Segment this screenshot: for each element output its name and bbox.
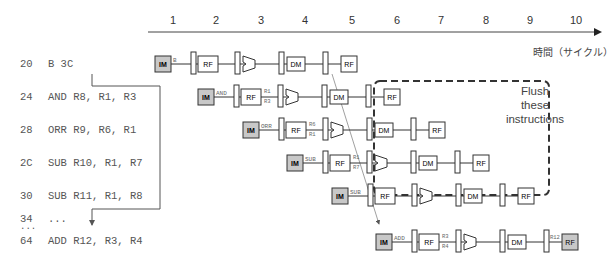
svg-text:RF: RF [432, 127, 441, 134]
svg-text:RF: RF [335, 160, 344, 167]
svg-text:R3: R3 [442, 233, 449, 240]
svg-text:RF: RF [476, 160, 485, 167]
svg-text:DM: DM [423, 160, 434, 167]
svg-text:IM: IM [247, 127, 255, 134]
svg-text:R12: R12 [550, 234, 560, 241]
svg-text:RF: RF [565, 239, 574, 246]
svg-text:RF: RF [387, 94, 396, 101]
svg-text:R1: R1 [309, 131, 316, 138]
branch-target-arrow [92, 74, 160, 225]
svg-text:R6: R6 [309, 121, 316, 128]
svg-text:IM: IM [291, 160, 299, 167]
svg-text:IM: IM [336, 193, 344, 200]
svg-text:R7: R7 [353, 164, 360, 171]
svg-text:RF: RF [203, 61, 212, 68]
svg-text:ORR: ORR [261, 123, 272, 130]
svg-text:RF: RF [424, 239, 433, 246]
svg-text:RF: RF [246, 94, 255, 101]
svg-text:DM: DM [334, 94, 345, 101]
svg-text:SUB: SUB [350, 189, 361, 196]
svg-text:B: B [173, 57, 177, 64]
flush-label: Flushtheseinstructions [490, 84, 580, 126]
svg-text:RF: RF [380, 193, 389, 200]
svg-text:IM: IM [380, 239, 388, 246]
svg-text:RF: RF [291, 127, 300, 134]
svg-text:DM: DM [468, 193, 479, 200]
svg-text:IM: IM [202, 94, 210, 101]
svg-text:R1: R1 [353, 154, 360, 161]
svg-text:R1: R1 [264, 88, 271, 95]
pipeline-diagram: IMBRFDMRFIMANDRFR1R3DMRFIMORRRFR6R1DMRFI… [0, 0, 615, 268]
svg-text:R3: R3 [264, 98, 271, 105]
svg-text:DM: DM [291, 61, 302, 68]
svg-text:R4: R4 [442, 243, 449, 250]
svg-text:RF: RF [521, 193, 530, 200]
svg-text:ADD: ADD [394, 235, 405, 242]
svg-text:RF: RF [344, 61, 353, 68]
svg-text:AND: AND [216, 90, 227, 97]
svg-text:IM: IM [159, 61, 167, 68]
svg-text:DM: DM [512, 239, 523, 246]
svg-text:SUB: SUB [305, 156, 316, 163]
svg-text:DM: DM [379, 127, 390, 134]
